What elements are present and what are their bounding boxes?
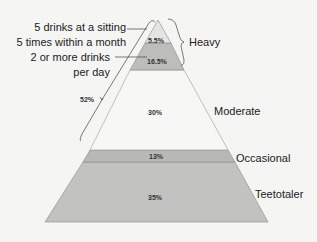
band-percent-teetotaler: 35%	[148, 194, 162, 202]
band-percent-heavy-daily: 16.5%	[147, 58, 167, 66]
bracket-percent-label: 52%	[80, 96, 94, 104]
band-teetotaler	[45, 162, 268, 222]
binge-label-line2: 5 times within a month	[6, 36, 126, 48]
category-label-moderate: Moderate	[214, 105, 260, 117]
drinking-pyramid-diagram: 5 drinks at a sitting 5 times within a m…	[0, 0, 317, 242]
category-label-teetotaler: Teetotaler	[255, 188, 303, 200]
category-label-occasional: Occasional	[236, 152, 290, 164]
binge-label-line1: 5 drinks at a sitting	[26, 21, 126, 33]
daily-label-line1: 2 or more drinks	[18, 51, 110, 63]
category-label-heavy: Heavy	[189, 36, 220, 48]
daily-label-line2: per day	[18, 66, 110, 78]
band-percent-heavy-binge: 5.5%	[148, 37, 164, 45]
band-percent-occasional: 13%	[149, 153, 163, 161]
band-percent-moderate: 30%	[148, 109, 162, 117]
